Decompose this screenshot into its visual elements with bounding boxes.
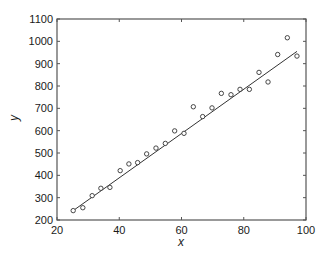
x-tick-label: 80 [238,224,250,236]
y-tick-label: 1100 [29,13,53,25]
y-tick-label: 700 [35,102,53,114]
data-points [71,36,299,213]
data-point [144,152,148,156]
data-point [247,87,251,91]
data-point [127,162,131,166]
y-tick-label: 300 [35,192,53,204]
y-tick-label: 600 [35,125,53,137]
data-point [229,93,233,97]
data-point [99,186,103,190]
data-point [275,52,279,56]
scatter-chart: 2040608010020030040050060070080090010001… [0,0,327,258]
y-tick-label: 1000 [29,35,53,47]
axes-box [57,19,306,220]
data-point [210,106,214,110]
data-point [266,80,270,84]
data-point [191,105,195,109]
x-tick-label: 40 [113,224,125,236]
y-axis-label: y [7,114,21,122]
y-tick-label: 500 [35,147,53,159]
data-point [295,54,299,58]
data-point [163,141,167,145]
data-point [135,160,139,164]
y-tick-label: 200 [35,214,53,226]
y-tick-label: 900 [35,58,53,70]
data-point [90,193,94,197]
data-point [172,129,176,133]
x-tick-label: 100 [297,224,315,236]
x-axis-label: x [177,235,185,249]
data-point [182,131,186,135]
data-point [200,114,204,118]
data-point [81,206,85,210]
data-point [285,36,289,40]
plot-frame [57,19,306,220]
y-tick-label: 400 [35,169,53,181]
axis-ticks: 2040608010020030040050060070080090010001… [29,13,316,236]
data-point [219,91,223,95]
data-point [154,146,158,150]
data-point [257,70,261,74]
data-point [71,208,75,212]
data-point [108,185,112,189]
data-point [118,168,122,172]
y-tick-label: 800 [35,80,53,92]
data-point [238,87,242,91]
